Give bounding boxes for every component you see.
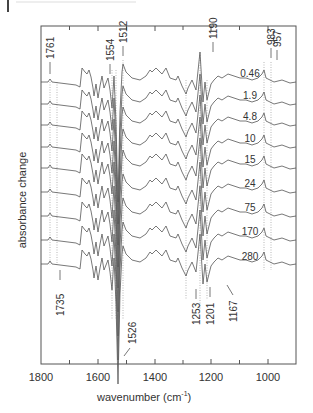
band-label-957: 957 [272,30,283,47]
band-label-1526: 1526 [127,321,138,344]
band-label-1190: 1190 [208,17,219,39]
xtick-1200: 1200 [199,371,223,383]
conc-label: 0.46 [240,68,260,79]
x-axis-title: wavenumber (cm-1) [96,390,191,403]
conc-label: 75 [244,202,256,213]
band-label-1761: 1761 [45,36,56,59]
trace-4.8 [41,95,296,245]
spectra-traces [41,52,296,384]
band-label-1554: 1554 [105,38,116,61]
conc-label: 1.9 [243,90,257,101]
conc-label: 170 [242,226,259,237]
band-label-1201: 1201 [205,302,216,325]
conc-label: 10 [244,133,256,144]
conc-label: 15 [244,154,256,165]
conc-label: 4.8 [243,111,257,122]
band-label-1512: 1512 [118,20,129,43]
xtick-1400: 1400 [143,371,167,383]
xtick-1600: 1600 [86,371,110,383]
band-label-1167: 1167 [228,300,239,322]
band-label-1735: 1735 [55,293,66,316]
xtick-1800: 1800 [29,371,53,383]
conc-label: 280 [242,251,259,262]
trace-1.9 [41,74,296,224]
trace-15 [41,138,296,288]
trace-24 [41,162,296,312]
band-label-1253: 1253 [191,302,202,325]
y-axis-title: absorbance change [16,152,28,249]
xtick-1000: 1000 [256,371,280,383]
spectra-chart: 1800 1600 1400 1200 1000 wavenumber (cm-… [0,0,313,413]
conc-label: 24 [244,178,256,189]
